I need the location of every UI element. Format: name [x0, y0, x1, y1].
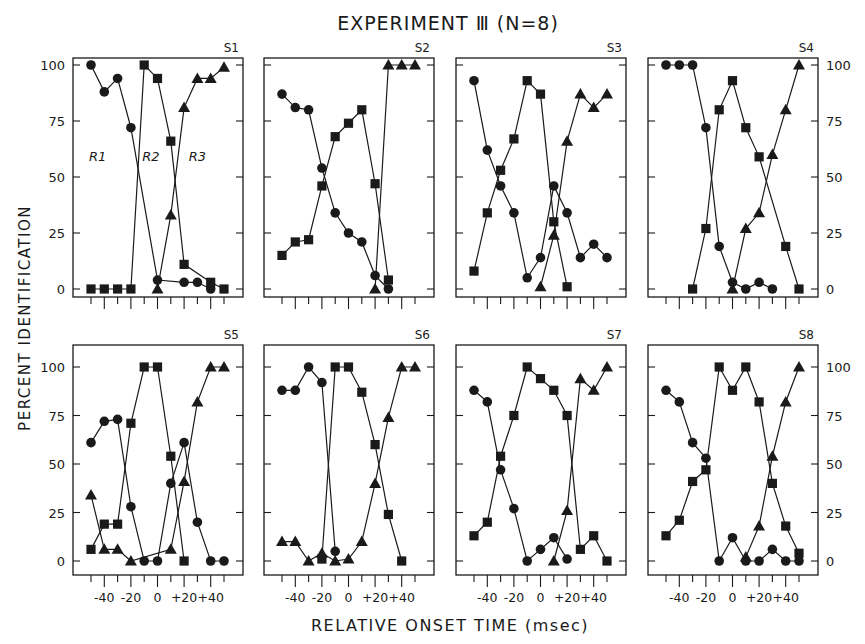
square-marker	[113, 284, 122, 293]
triangle-marker	[191, 396, 203, 407]
triangle-marker	[165, 543, 177, 554]
x-tick-label: +20	[362, 590, 388, 605]
circle-marker	[536, 253, 546, 263]
square-marker	[675, 516, 684, 525]
circle-marker	[304, 105, 314, 115]
panel-s5: S50255075100-40-200+20+40	[40, 328, 243, 605]
triangle-marker	[793, 361, 805, 372]
triangle-marker	[535, 281, 547, 292]
triangle-marker	[165, 209, 177, 220]
square-marker	[715, 362, 724, 371]
square-marker	[523, 76, 532, 85]
circle-marker	[100, 417, 110, 427]
triangle-marker	[396, 59, 408, 70]
x-tick-label: +40	[581, 590, 607, 605]
circle-marker	[562, 208, 572, 218]
square-marker	[661, 531, 670, 540]
circle-marker	[330, 547, 340, 557]
circle-marker	[113, 415, 123, 425]
circle-marker	[701, 453, 711, 463]
square-marker	[331, 132, 340, 141]
square-marker	[509, 134, 518, 143]
x-tick-label: -40	[477, 590, 497, 605]
panel-frame	[73, 345, 243, 575]
triangle-marker	[316, 547, 328, 558]
square-marker	[701, 224, 710, 233]
square-marker	[768, 479, 777, 488]
triangle-marker	[178, 102, 190, 113]
square-marker	[140, 362, 149, 371]
square-marker	[219, 284, 228, 293]
x-tick-label: +20	[746, 590, 772, 605]
series-line-r1	[91, 65, 211, 289]
square-marker	[126, 419, 135, 428]
region-label: R1	[89, 149, 106, 164]
triangle-marker	[601, 88, 613, 99]
series-line-r1	[282, 94, 388, 289]
circle-marker	[304, 362, 314, 372]
x-tick-label: +40	[773, 590, 799, 605]
x-tick-label: +40	[389, 590, 415, 605]
circle-marker	[100, 87, 110, 97]
square-marker	[331, 362, 340, 371]
circle-marker	[549, 533, 559, 543]
x-tick-label: -20	[504, 590, 524, 605]
panel-frame	[73, 58, 243, 297]
circle-marker	[589, 239, 599, 249]
square-marker	[344, 362, 353, 371]
circle-marker	[291, 385, 301, 395]
panel-frame	[648, 58, 818, 297]
square-marker	[384, 275, 393, 284]
x-tick-label: -20	[312, 590, 332, 605]
panel-label: S8	[799, 328, 814, 342]
y-tick-label: 75	[826, 409, 843, 424]
triangle-marker	[369, 477, 381, 488]
square-marker	[371, 440, 380, 449]
series-line-r3	[282, 367, 415, 561]
circle-marker	[688, 438, 698, 448]
panels: S10255075100R1R2R3S2S3S40255075100S50255…	[40, 41, 851, 605]
series-line-r2	[666, 367, 799, 553]
x-tick-label: -40	[94, 590, 114, 605]
triangle-marker	[303, 555, 315, 566]
circle-marker	[483, 397, 493, 407]
circle-marker	[688, 60, 698, 70]
square-marker	[371, 179, 380, 188]
y-tick-label: 50	[48, 170, 65, 185]
triangle-marker	[289, 536, 301, 547]
panel-s1: S10255075100R1R2R3	[40, 41, 243, 309]
y-tick-label: 50	[48, 457, 65, 472]
circle-marker	[675, 397, 685, 407]
y-tick-label: 25	[48, 506, 65, 521]
triangle-marker	[191, 72, 203, 83]
series-line-r3	[158, 67, 225, 289]
square-marker	[741, 362, 750, 371]
circle-marker	[781, 556, 791, 566]
square-marker	[483, 518, 492, 527]
square-marker	[781, 242, 790, 251]
x-tick-label: 0	[729, 590, 737, 605]
chart-title: EXPERIMENT Ⅲ (N=8)	[337, 12, 559, 34]
figure: EXPERIMENT Ⅲ (N=8) PERCENT IDENTIFICATIO…	[0, 0, 865, 644]
square-marker	[357, 388, 366, 397]
circle-marker	[179, 438, 189, 448]
triangle-marker	[561, 505, 573, 516]
circle-marker	[728, 533, 738, 543]
circle-marker	[661, 385, 671, 395]
square-marker	[166, 452, 175, 461]
circle-marker	[113, 74, 123, 84]
x-tick-label: -20	[696, 590, 716, 605]
panel-s6: S6-40-200+20+40	[264, 328, 434, 605]
circle-marker	[219, 556, 229, 566]
square-marker	[469, 266, 478, 275]
square-marker	[483, 208, 492, 217]
y-tick-label: 0	[826, 282, 834, 297]
x-tick-label: +20	[171, 590, 197, 605]
circle-marker	[754, 277, 764, 287]
circle-marker	[714, 242, 724, 252]
y-tick-label: 0	[57, 554, 65, 569]
square-marker	[576, 545, 585, 554]
square-marker	[153, 362, 162, 371]
triangle-marker	[218, 61, 230, 71]
square-marker	[100, 520, 109, 529]
